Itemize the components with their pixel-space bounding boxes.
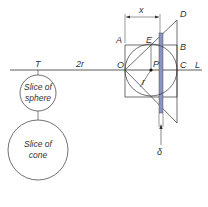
label-L: L <box>195 60 200 70</box>
label-E: E <box>146 35 153 45</box>
shaded-slice <box>159 33 163 113</box>
arrow-up-icon <box>159 124 162 129</box>
label-2r: 2r <box>75 59 85 69</box>
cone-slice-line1: Slice of <box>24 139 54 149</box>
label-T: T <box>35 59 42 69</box>
label-P: P <box>153 59 159 69</box>
arrow-left-icon <box>126 16 130 19</box>
cone-lower-line <box>125 70 177 123</box>
arrow-right-icon <box>155 16 159 19</box>
sphere-slice-line1: Slice of <box>24 82 54 92</box>
label-D: D <box>180 9 187 19</box>
archimedes-diagram: x D A E B O P C L r T 2r δ Slice of sphe… <box>0 0 208 207</box>
label-A: A <box>115 35 122 45</box>
cone-slice-line2: cone <box>29 150 48 160</box>
label-x: x <box>138 5 144 15</box>
label-C: C <box>180 60 187 70</box>
label-B: B <box>180 42 186 52</box>
label-O: O <box>117 60 124 70</box>
sphere-slice-line2: sphere <box>25 93 51 103</box>
label-delta: δ <box>157 147 163 157</box>
